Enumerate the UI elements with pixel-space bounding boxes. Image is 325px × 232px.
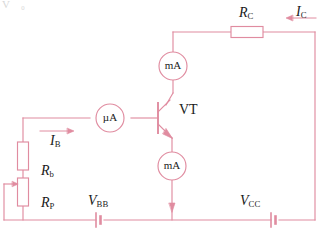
battery-base-label-sub: BB (97, 199, 109, 209)
battery-collector-label: VCC (240, 194, 261, 209)
meter-collector-label: mA (165, 59, 182, 71)
battery-base-label: VBB (88, 194, 109, 209)
corner-note: V ₀ (2, 0, 25, 10)
resistor-collector-body (231, 27, 263, 38)
battery-collector-label-main: V (240, 193, 249, 208)
transistor-label: VT (179, 103, 198, 117)
resistor-base-body (18, 142, 29, 170)
potentiometer-wiper (4, 184, 17, 220)
resistor-collector-label-main: R (239, 5, 248, 20)
circuit-diagram-canvas: mA mA µA V ₀ VT RC IC IB Rb RP VBB VCC (0, 0, 325, 232)
resistor-base-label-main: R (41, 163, 50, 178)
meter-emitter-label: mA (164, 159, 181, 171)
battery-collector-symbol (271, 213, 276, 227)
current-collector-label: IC (296, 5, 307, 20)
potentiometer-label-main: R (41, 195, 50, 210)
current-base-label: IB (50, 134, 61, 149)
resistor-collector-label-sub: C (248, 11, 254, 21)
current-arrow-base (40, 128, 74, 134)
current-base-label-sub: B (55, 139, 61, 149)
battery-collector-label-sub: CC (249, 199, 261, 209)
resistor-base-label: Rb (41, 164, 54, 179)
resistor-base-label-sub: b (50, 169, 55, 179)
battery-base-symbol (96, 213, 101, 227)
junction-emitter-bottom (169, 203, 175, 212)
potentiometer-label-sub: P (50, 201, 55, 211)
battery-base-label-main: V (88, 193, 97, 208)
meter-base-label: µA (103, 111, 117, 123)
current-collector-label-sub: C (301, 10, 307, 20)
potentiometer-body (18, 178, 29, 206)
resistor-collector-label: RC (239, 6, 254, 21)
potentiometer-label: RP (41, 196, 55, 211)
